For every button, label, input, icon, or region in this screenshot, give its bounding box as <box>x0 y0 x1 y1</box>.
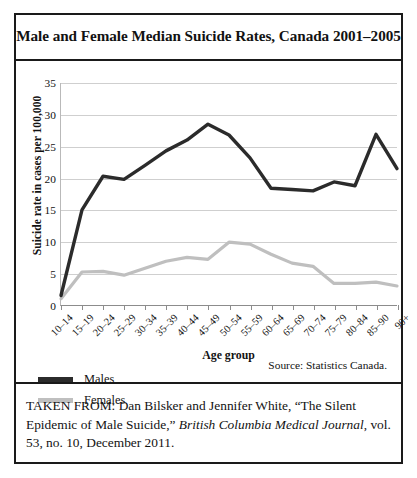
x-axis-tick <box>356 305 357 310</box>
x-axis-tick <box>251 305 252 310</box>
legend-label: Males <box>84 372 114 387</box>
x-axis-tick <box>314 305 315 310</box>
y-axis-tick-label: 10 <box>45 236 56 248</box>
y-axis-tick-label: 5 <box>50 268 56 280</box>
y-axis-tick-label: 30 <box>45 109 56 121</box>
figure-caption: TAKEN FROM: Dan Bilsker and Jennifer Whi… <box>26 397 391 452</box>
series-layer <box>61 83 397 305</box>
x-axis-tick <box>103 305 104 310</box>
y-axis-title: Suicide rate in cases per 100,000 <box>31 86 44 266</box>
page-title: Male and Female Median Suicide Rates, Ca… <box>16 27 401 45</box>
figure-frame: Male and Female Median Suicide Rates, Ca… <box>14 13 403 464</box>
legend-item-males: Males <box>38 369 125 390</box>
x-axis-tick <box>293 305 294 310</box>
chart-container: Suicide rate in cases per 100,000 051015… <box>16 61 401 386</box>
y-axis-tick-label: 25 <box>45 141 56 153</box>
x-axis-tick <box>398 305 399 310</box>
x-axis-tick <box>187 305 188 310</box>
x-axis-tick <box>82 305 83 310</box>
x-axis-tick <box>230 305 231 310</box>
x-axis-tick <box>377 305 378 310</box>
caption-journal-title: British Columbia Medical Journal <box>179 417 364 432</box>
y-axis-tick-label: 35 <box>45 77 56 89</box>
y-axis-tick-label: 0 <box>50 300 56 312</box>
plot-area: 05101520253035 10–1415–1920–2425–2930–34… <box>60 83 397 306</box>
x-axis-tick <box>166 305 167 310</box>
x-axis-tick <box>124 305 125 310</box>
source-note: Source: Statistics Canada. <box>268 359 387 371</box>
x-axis-tick <box>208 305 209 310</box>
series-line-females <box>61 242 397 298</box>
x-axis-tick <box>272 305 273 310</box>
x-axis-tick <box>145 305 146 310</box>
y-axis-tick-label: 20 <box>45 173 56 185</box>
x-axis-tick <box>335 305 336 310</box>
y-axis-tick-label: 15 <box>45 204 56 216</box>
caption-divider <box>16 382 401 384</box>
series-line-males <box>61 124 397 295</box>
x-axis-tick <box>61 305 62 310</box>
